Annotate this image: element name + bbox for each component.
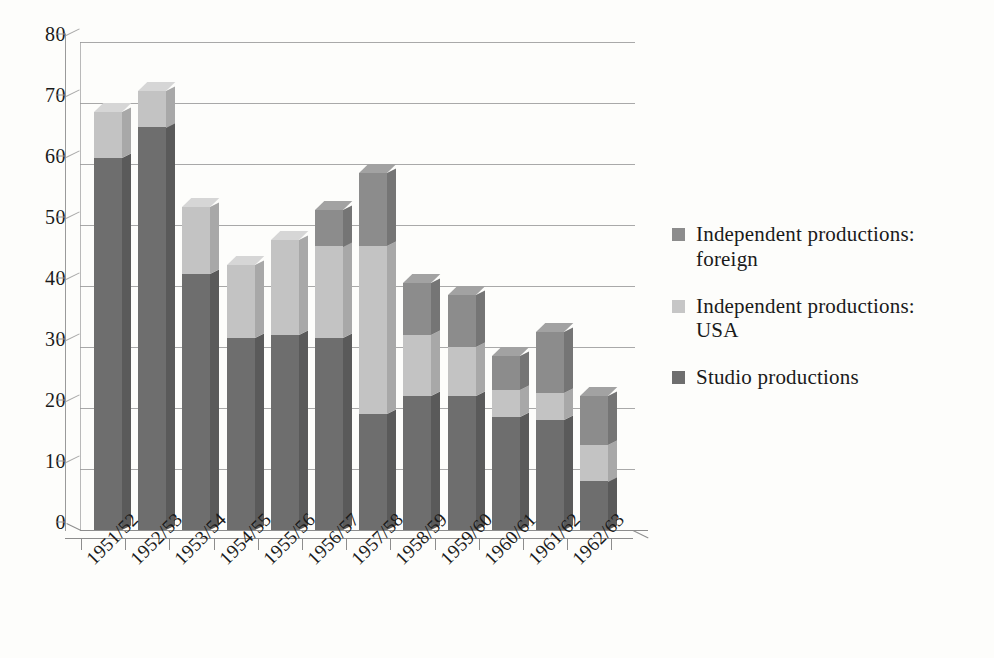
bar-segment-usa (94, 112, 122, 158)
bar-segment-front (271, 240, 299, 335)
bar-1952-53[interactable] (138, 42, 166, 530)
legend-item-0[interactable]: Independent productions: foreign (672, 222, 972, 272)
bar-segment-front (227, 338, 255, 530)
bar-1959-60[interactable] (448, 42, 476, 530)
bar-1953-54[interactable] (182, 42, 210, 530)
bar-segment-side (210, 202, 219, 273)
bar-segment-side (343, 205, 352, 246)
bar-segment-usa (271, 240, 299, 335)
y-tick-mark-80 (56, 34, 66, 35)
gridline-riser (66, 272, 80, 279)
bar-segment-front (492, 356, 520, 390)
bar-segment-foreign (448, 295, 476, 347)
bar-segment-side (299, 330, 308, 530)
legend-item-2[interactable]: Studio productions (672, 365, 972, 390)
chart-legend: Independent productions: foreignIndepend… (672, 222, 972, 412)
gridline-riser (66, 211, 80, 218)
bar-1956-57[interactable] (315, 42, 343, 530)
bar-segment-usa (536, 393, 564, 420)
bar-segment-front (403, 396, 431, 530)
bar-segment-side (299, 236, 308, 335)
gridline-riser (66, 333, 80, 340)
gridline-riser (66, 28, 80, 35)
bar-segment-side (255, 260, 264, 338)
bar-segment-side (255, 333, 264, 530)
bar-segment-studio (182, 274, 210, 530)
bar-segment-studio (271, 335, 299, 530)
bar-segment-front (315, 246, 343, 338)
bar-segment-side (431, 330, 440, 395)
y-tick-mark-20 (56, 400, 66, 401)
bar-segment-usa (580, 445, 608, 482)
bar-segment-front (138, 91, 166, 128)
bar-1960-61[interactable] (492, 42, 520, 530)
bar-segment-front (492, 417, 520, 530)
y-tick-mark-50 (56, 217, 66, 218)
bar-segment-studio (492, 417, 520, 530)
gridline-riser (66, 455, 80, 462)
y-tick-mark-10 (56, 461, 66, 462)
bar-segment-front (359, 246, 387, 414)
legend-swatch-icon (672, 300, 685, 313)
bar-segment-side (608, 440, 617, 481)
y-tick-mark-0 (56, 522, 66, 523)
bar-segment-front (94, 112, 122, 158)
gridline-riser (66, 394, 80, 401)
bar-segment-front (315, 210, 343, 247)
y-tick-mark-60 (56, 156, 66, 157)
bar-1961-62[interactable] (536, 42, 564, 530)
bar-segment-side (564, 327, 573, 392)
bar-segment-usa (182, 207, 210, 274)
chart-container: 01020304050607080 1951/521952/531953/541… (0, 0, 994, 658)
bar-segment-usa (138, 91, 166, 128)
bar-segment-side (431, 279, 440, 335)
bar-segment-side (520, 352, 529, 390)
bar-segment-front (359, 414, 387, 530)
bar-segment-side (343, 242, 352, 338)
legend-label: Studio productions (696, 365, 859, 390)
bar-segment-side (210, 269, 219, 530)
bar-segment-studio (536, 420, 564, 530)
bar-segment-front (580, 396, 608, 445)
bar-segment-studio (359, 414, 387, 530)
bar-segment-side (608, 391, 617, 444)
bar-segment-side (476, 343, 485, 396)
gridline-riser (66, 150, 80, 157)
bar-segment-studio (448, 396, 476, 530)
bar-segment-side (343, 333, 352, 530)
bar-segment-front (448, 347, 476, 396)
bar-1962-63[interactable] (580, 42, 608, 530)
bar-segment-front (536, 332, 564, 393)
bar-segment-front (536, 393, 564, 420)
bar-1951-52[interactable] (94, 42, 122, 530)
bar-segment-side (476, 291, 485, 347)
bar-segment-studio (315, 338, 343, 530)
bar-segment-front (492, 390, 520, 417)
bar-segment-side (166, 123, 175, 530)
bar-segment-studio (94, 158, 122, 530)
bar-segment-usa (492, 390, 520, 417)
bar-segment-front (403, 335, 431, 396)
bar-segment-side (387, 242, 396, 414)
legend-swatch-icon (672, 371, 685, 384)
bar-1955-56[interactable] (271, 42, 299, 530)
bar-segment-side (122, 108, 131, 158)
bar-segment-front (138, 127, 166, 530)
bar-segment-side (122, 154, 131, 530)
bar-segment-front (94, 158, 122, 530)
bar-segment-usa (359, 246, 387, 414)
bar-1954-55[interactable] (227, 42, 255, 530)
gridline-riser (66, 89, 80, 96)
bar-segment-side (564, 388, 573, 420)
bar-1957-58[interactable] (359, 42, 387, 530)
bar-1958-59[interactable] (403, 42, 431, 530)
bar-segment-studio (227, 338, 255, 530)
bar-segment-front (580, 445, 608, 482)
bar-segment-front (182, 274, 210, 530)
legend-item-1[interactable]: Independent productions: USA (672, 294, 972, 344)
bar-segment-side (166, 86, 175, 127)
bar-segment-front (227, 265, 255, 338)
legend-label: Independent productions: foreign (696, 222, 946, 272)
x-tick-mark-0 (81, 539, 82, 550)
bar-segment-front (315, 338, 343, 530)
